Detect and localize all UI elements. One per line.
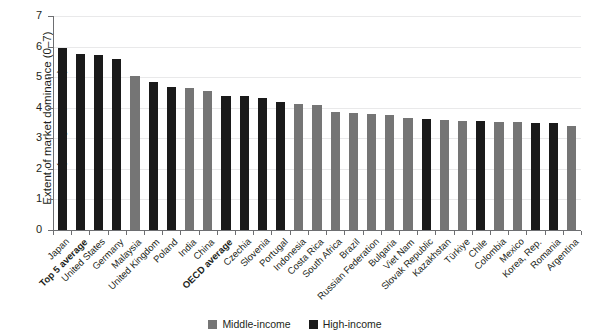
bar[interactable] [312, 105, 321, 230]
bar[interactable] [440, 120, 449, 230]
legend-item[interactable]: Middle-income [208, 318, 290, 330]
x-axis-tick [435, 231, 436, 235]
x-axis-label: Costa Rica [285, 236, 326, 277]
x-axis-label: Portugal [257, 236, 290, 269]
y-axis-label: 5 [20, 70, 42, 82]
x-axis-label: India [176, 236, 198, 258]
bar[interactable] [130, 76, 139, 230]
bar[interactable] [494, 122, 503, 230]
bar[interactable] [513, 122, 522, 230]
bar[interactable] [203, 91, 212, 230]
bar[interactable] [276, 102, 285, 230]
x-axis-tick [417, 231, 418, 235]
bar[interactable] [58, 48, 67, 230]
x-axis-label: Türkiye [442, 236, 472, 266]
x-axis-tick [508, 231, 509, 235]
bar[interactable] [221, 96, 230, 231]
bar[interactable] [367, 114, 376, 230]
bar[interactable] [76, 54, 85, 230]
legend: Middle-incomeHigh-income [0, 318, 590, 330]
bar[interactable] [385, 115, 394, 230]
bar[interactable] [294, 104, 303, 230]
y-axis-tick [48, 199, 53, 200]
x-axis-label: South Africa [300, 236, 344, 280]
bar[interactable] [549, 123, 558, 230]
legend-label: Middle-income [222, 318, 290, 330]
bar[interactable] [240, 96, 249, 230]
x-axis-label: Russian Federation [315, 236, 381, 302]
x-axis-label: Indonesia [271, 236, 308, 273]
y-axis-tick [48, 77, 53, 78]
bar[interactable] [349, 113, 358, 230]
x-axis-tick [363, 231, 364, 235]
y-axis-label: 4 [20, 101, 42, 113]
x-axis-label: Bulgaria [366, 236, 398, 268]
legend-swatch-icon [309, 320, 318, 329]
x-axis-label: Czechia [221, 236, 253, 268]
x-axis-tick [344, 231, 345, 235]
y-axis-tick [48, 16, 53, 17]
bar[interactable] [458, 121, 467, 230]
x-axis-tick [144, 231, 145, 235]
x-axis-label: Japan [45, 236, 71, 262]
x-axis-label: United Kingdom [106, 236, 162, 292]
y-axis-label: 3 [20, 131, 42, 143]
bar[interactable] [403, 118, 412, 230]
x-axis-tick [545, 231, 546, 235]
x-axis-label: Argentina [544, 236, 581, 273]
x-axis-label: Viet Nam [381, 236, 416, 271]
bar[interactable] [112, 59, 121, 230]
x-axis-tick [53, 231, 54, 235]
x-axis-label: Mexico [497, 236, 526, 265]
x-axis-tick [126, 231, 127, 235]
gridline [54, 16, 581, 17]
x-axis-label: Chile [466, 236, 489, 259]
bar[interactable] [149, 82, 158, 230]
bar[interactable] [567, 126, 576, 230]
x-axis-label: Slovak Republic [379, 236, 435, 292]
x-axis-tick [472, 231, 473, 235]
x-axis-label: Malaysia [109, 236, 143, 270]
y-axis-title-line1: Extent of market dominance (0–7) [41, 31, 53, 204]
x-axis-tick [326, 231, 327, 235]
x-axis-tick [180, 231, 181, 235]
x-axis-label: Slovenia [238, 236, 272, 270]
y-axis-tick [48, 47, 53, 48]
x-axis-label: Germany [90, 236, 125, 271]
x-axis-tick [253, 231, 254, 235]
y-axis-tick [48, 138, 53, 139]
bar[interactable] [422, 119, 431, 230]
bar[interactable] [258, 98, 267, 230]
bar[interactable] [185, 88, 194, 230]
x-axis-label: Colombia [472, 236, 508, 272]
x-axis-label: Korea, Rep. [500, 236, 544, 280]
x-axis-label: Romania [528, 236, 563, 271]
y-axis-label: 6 [20, 40, 42, 52]
x-axis-label: Kazakhstan [410, 236, 453, 279]
x-axis-tick [399, 231, 400, 235]
legend-item[interactable]: High-income [309, 318, 382, 330]
x-axis-label: China [191, 236, 216, 261]
bar[interactable] [531, 123, 540, 230]
bar[interactable] [331, 112, 340, 230]
x-axis-label: Poland [151, 236, 180, 265]
y-axis-tick [48, 108, 53, 109]
y-axis-label: 7 [20, 9, 42, 21]
x-axis-tick [199, 231, 200, 235]
x-axis-label: Top 5 average [37, 236, 89, 288]
x-axis-tick [563, 231, 564, 235]
gridline [54, 47, 581, 48]
legend-swatch-icon [208, 320, 217, 329]
x-axis-tick [290, 231, 291, 235]
x-axis-tick [235, 231, 236, 235]
x-axis-tick [308, 231, 309, 235]
legend-label: High-income [323, 318, 382, 330]
x-axis-tick [381, 231, 382, 235]
bar[interactable] [94, 55, 103, 230]
bar-chart: Extent of market dominance (0–7) (survey… [0, 0, 590, 336]
bar[interactable] [476, 121, 485, 230]
x-axis-tick [581, 231, 582, 235]
x-axis-tick [89, 231, 90, 235]
plot-area [53, 16, 581, 230]
bar[interactable] [167, 87, 176, 230]
